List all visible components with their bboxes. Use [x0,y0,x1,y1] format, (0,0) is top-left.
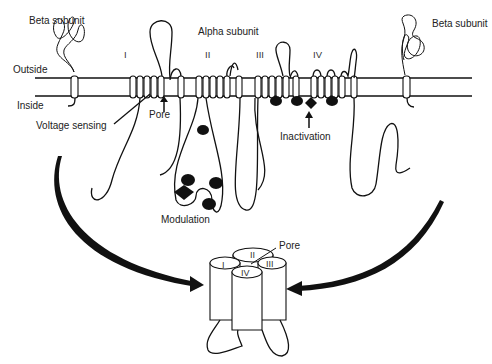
ion-channel-diagram: Beta subunit Beta subunit Alpha subunit … [0,0,492,364]
cylinder-ii-label: II [250,251,255,260]
alpha-subunit-label: Alpha subunit [198,27,259,37]
domain-iv [255,49,410,196]
domain-iii-label: III [256,50,264,60]
outside-label: Outside [13,65,47,75]
inside-label: Inside [17,101,44,111]
modulation-label: Modulation [161,215,210,225]
domain-ii-label: II [205,50,210,60]
domain-ii [174,63,258,212]
beta-subunit-right [402,15,424,107]
beta-subunit-left-label: Beta subunit [29,16,85,26]
cylinder-i-label: I [222,261,225,270]
inactivation-label: Inactivation [280,132,331,142]
cylinder-iv-label: IV [241,269,250,278]
inactivation-arrow [305,111,313,128]
assembly-arrow-right [286,200,444,296]
domain-i-label: I [124,50,127,60]
cylinder-iii-label: III [266,260,274,269]
diagram-graphics [0,0,492,364]
pore-label-bottom: Pore [279,241,300,251]
assembled-channel [207,248,288,356]
beta-subunit-right-label: Beta subunit [432,19,488,29]
voltage-sensing-pointer [114,94,150,124]
domain-iii [255,42,317,109]
domain-iv-label: IV [313,50,322,60]
voltage-sensing-label: Voltage sensing [36,121,107,131]
pore-label-top: Pore [149,110,170,120]
beta-subunit-left [54,17,85,106]
